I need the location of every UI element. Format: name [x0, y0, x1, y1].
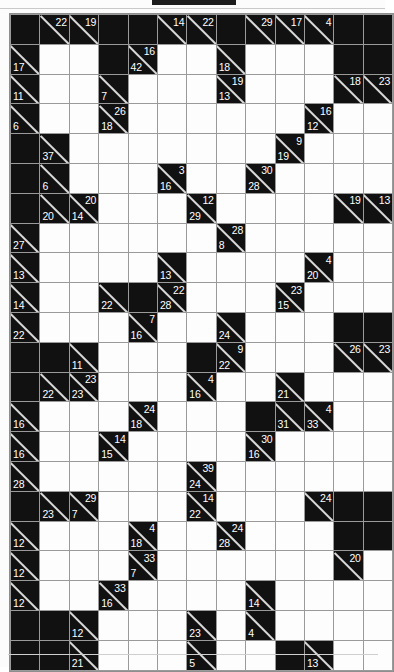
entry-cell[interactable] — [129, 75, 157, 104]
entry-cell[interactable] — [246, 75, 274, 104]
entry-cell[interactable] — [276, 551, 304, 580]
entry-cell[interactable] — [364, 253, 392, 282]
entry-cell[interactable] — [99, 194, 127, 223]
entry-cell[interactable] — [99, 641, 127, 670]
entry-cell[interactable] — [246, 343, 274, 372]
entry-cell[interactable] — [305, 611, 333, 640]
entry-cell[interactable] — [158, 581, 186, 610]
entry-cell[interactable] — [40, 224, 68, 253]
entry-cell[interactable] — [217, 462, 245, 491]
entry-cell[interactable] — [246, 224, 274, 253]
entry-cell[interactable] — [334, 611, 362, 640]
entry-cell[interactable] — [246, 104, 274, 133]
entry-cell[interactable] — [99, 343, 127, 372]
entry-cell[interactable] — [305, 283, 333, 312]
entry-cell[interactable] — [187, 224, 215, 253]
entry-cell[interactable] — [70, 581, 98, 610]
entry-cell[interactable] — [40, 75, 68, 104]
entry-cell[interactable] — [334, 641, 362, 670]
entry-cell[interactable] — [129, 164, 157, 193]
entry-cell[interactable] — [187, 104, 215, 133]
entry-cell[interactable] — [99, 253, 127, 282]
entry-cell[interactable] — [129, 343, 157, 372]
entry-cell[interactable] — [246, 492, 274, 521]
entry-cell[interactable] — [217, 164, 245, 193]
entry-cell[interactable] — [246, 45, 274, 74]
entry-cell[interactable] — [217, 134, 245, 163]
entry-cell[interactable] — [246, 194, 274, 223]
entry-cell[interactable] — [40, 104, 68, 133]
entry-cell[interactable] — [305, 45, 333, 74]
entry-cell[interactable] — [99, 313, 127, 342]
entry-cell[interactable] — [276, 432, 304, 461]
entry-cell[interactable] — [217, 641, 245, 670]
entry-cell[interactable] — [40, 45, 68, 74]
entry-cell[interactable] — [305, 462, 333, 491]
entry-cell[interactable] — [40, 462, 68, 491]
entry-cell[interactable] — [99, 224, 127, 253]
entry-cell[interactable] — [334, 373, 362, 402]
entry-cell[interactable] — [276, 253, 304, 282]
entry-cell[interactable] — [129, 462, 157, 491]
entry-cell[interactable] — [70, 551, 98, 580]
entry-cell[interactable] — [334, 402, 362, 431]
entry-cell[interactable] — [40, 581, 68, 610]
entry-cell[interactable] — [40, 283, 68, 312]
entry-cell[interactable] — [187, 313, 215, 342]
entry-cell[interactable] — [364, 283, 392, 312]
entry-cell[interactable] — [70, 45, 98, 74]
entry-cell[interactable] — [305, 164, 333, 193]
entry-cell[interactable] — [129, 581, 157, 610]
entry-cell[interactable] — [40, 551, 68, 580]
entry-cell[interactable] — [70, 224, 98, 253]
entry-cell[interactable] — [334, 432, 362, 461]
entry-cell[interactable] — [158, 611, 186, 640]
entry-cell[interactable] — [364, 611, 392, 640]
entry-cell[interactable] — [364, 432, 392, 461]
entry-cell[interactable] — [99, 492, 127, 521]
entry-cell[interactable] — [129, 373, 157, 402]
entry-cell[interactable] — [217, 581, 245, 610]
entry-cell[interactable] — [246, 641, 274, 670]
entry-cell[interactable] — [364, 462, 392, 491]
entry-cell[interactable] — [364, 551, 392, 580]
entry-cell[interactable] — [276, 164, 304, 193]
entry-cell[interactable] — [276, 75, 304, 104]
entry-cell[interactable] — [40, 522, 68, 551]
entry-cell[interactable] — [129, 224, 157, 253]
entry-cell[interactable] — [364, 134, 392, 163]
entry-cell[interactable] — [246, 551, 274, 580]
entry-cell[interactable] — [158, 373, 186, 402]
entry-cell[interactable] — [158, 224, 186, 253]
entry-cell[interactable] — [217, 253, 245, 282]
entry-cell[interactable] — [334, 104, 362, 133]
entry-cell[interactable] — [364, 641, 392, 670]
entry-cell[interactable] — [305, 373, 333, 402]
entry-cell[interactable] — [187, 581, 215, 610]
entry-cell[interactable] — [129, 611, 157, 640]
entry-cell[interactable] — [276, 611, 304, 640]
entry-cell[interactable] — [305, 194, 333, 223]
entry-cell[interactable] — [305, 432, 333, 461]
entry-cell[interactable] — [246, 373, 274, 402]
entry-cell[interactable] — [40, 313, 68, 342]
entry-cell[interactable] — [70, 104, 98, 133]
entry-cell[interactable] — [158, 194, 186, 223]
entry-cell[interactable] — [187, 75, 215, 104]
entry-cell[interactable] — [217, 611, 245, 640]
entry-cell[interactable] — [129, 134, 157, 163]
entry-cell[interactable] — [187, 45, 215, 74]
entry-cell[interactable] — [217, 402, 245, 431]
entry-cell[interactable] — [364, 581, 392, 610]
entry-cell[interactable] — [70, 522, 98, 551]
entry-cell[interactable] — [129, 104, 157, 133]
entry-cell[interactable] — [40, 253, 68, 282]
entry-cell[interactable] — [334, 462, 362, 491]
entry-cell[interactable] — [158, 313, 186, 342]
entry-cell[interactable] — [158, 402, 186, 431]
entry-cell[interactable] — [187, 551, 215, 580]
entry-cell[interactable] — [276, 522, 304, 551]
entry-cell[interactable] — [129, 492, 157, 521]
entry-cell[interactable] — [70, 313, 98, 342]
entry-cell[interactable] — [158, 45, 186, 74]
